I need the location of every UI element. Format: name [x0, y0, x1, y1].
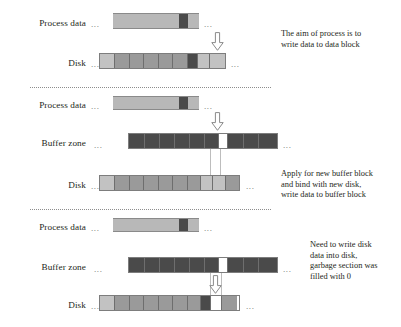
bar-stage3-disk [99, 295, 240, 311]
segment-block [160, 134, 175, 148]
segment-block [205, 134, 219, 148]
segment-block [228, 134, 244, 148]
segment-block [190, 134, 205, 148]
row-label-buffer-zone-2: Buffer zone [8, 138, 86, 148]
segment-block [115, 176, 130, 190]
segment-block [159, 296, 173, 310]
segment-block [259, 258, 277, 272]
section-separator-1 [30, 87, 271, 88]
segment-block [173, 176, 188, 190]
row-label-buffer-zone-3: Buffer zone [8, 262, 86, 272]
bar-stage3-buffer-zone [128, 257, 278, 273]
ellipsis-right-6: ... [204, 223, 213, 233]
segment-block [244, 258, 259, 272]
segment-target-block [188, 54, 198, 68]
segment-target-block [179, 97, 188, 109]
diagram-canvas: Process data ... ... Disk ... ... The ai… [0, 0, 401, 327]
down-arrow-icon [209, 275, 222, 294]
segment-data [188, 97, 199, 109]
bar-stage2-disk [99, 175, 240, 191]
segment-block [115, 54, 130, 68]
ellipsis-right-1: ... [204, 19, 213, 29]
segment-block [210, 54, 225, 68]
segment-block [159, 176, 173, 190]
segment-block [175, 134, 190, 148]
segment-block [222, 296, 237, 310]
annotation-stage-3: Need to write disk data into disk, garba… [310, 240, 401, 282]
segment-block [228, 258, 244, 272]
segment-block [190, 258, 205, 272]
segment-block [100, 54, 115, 68]
ellipsis-left-6: ... [91, 223, 100, 233]
segment-block [175, 258, 190, 272]
guide-line-right [220, 149, 221, 176]
down-arrow-icon [211, 32, 224, 51]
ellipsis-left-4: ... [94, 140, 103, 150]
segment-block [173, 296, 188, 310]
segment-data [188, 14, 199, 28]
segment-data [188, 219, 199, 231]
ellipsis-right-4: ... [283, 140, 292, 150]
bar-stage2-buffer-zone [128, 133, 278, 149]
ellipsis-right-3: ... [204, 101, 213, 111]
row-label-disk-1: Disk [8, 58, 86, 68]
ellipsis-right-2: ... [231, 59, 240, 69]
segment-block [160, 258, 175, 272]
segment-block [159, 54, 173, 68]
segment-block [144, 296, 159, 310]
ellipsis-right-7: ... [283, 264, 292, 274]
segment-block [244, 134, 259, 148]
segment-block [259, 134, 277, 148]
segment-block [115, 296, 130, 310]
ellipsis-right-8: ... [246, 301, 255, 311]
row-label-disk-2: Disk [8, 180, 86, 190]
segment-garbage-zero-block [211, 296, 222, 310]
down-arrow-icon [211, 112, 224, 131]
segment-block [129, 134, 145, 148]
row-label-process-data-2: Process data [8, 100, 86, 110]
segment-block [145, 134, 160, 148]
segment-block [188, 296, 201, 310]
ellipsis-right-5: ... [246, 181, 255, 191]
annotation-stage-2: Apply for new buffer block and bind with… [281, 169, 401, 201]
segment-target-block [179, 14, 188, 28]
segment-empty-buffer-block [219, 258, 228, 272]
segment-block [129, 258, 145, 272]
segment-released-block [201, 176, 213, 190]
section-separator-2 [30, 209, 271, 210]
annotation-stage-1: The aim of process is to write data to d… [281, 29, 399, 50]
segment-block [173, 54, 188, 68]
segment-block [130, 54, 144, 68]
segment-block [226, 176, 239, 190]
segment-block [144, 176, 159, 190]
bar-stage2-process-data [113, 96, 199, 110]
bar-stage3-process-data [113, 218, 199, 232]
bar-stage1-process-data [113, 13, 199, 29]
segment-written-block [201, 296, 211, 310]
ellipsis-left-1: ... [91, 19, 100, 29]
segment-block [130, 296, 144, 310]
bar-stage1-disk [99, 53, 226, 69]
row-label-process-data-3: Process data [8, 222, 86, 232]
segment-block [188, 176, 201, 190]
segment-block [130, 176, 144, 190]
segment-block [145, 258, 160, 272]
segment-block [144, 54, 159, 68]
segment-empty-buffer-block [219, 134, 228, 148]
ellipsis-left-7: ... [94, 264, 103, 274]
segment-block [213, 176, 226, 190]
ellipsis-left-3: ... [91, 101, 100, 111]
segment-block [100, 296, 115, 310]
segment-block [205, 258, 219, 272]
segment-block [100, 176, 115, 190]
row-label-process-data-1: Process data [8, 18, 86, 28]
segment-target-block [179, 219, 188, 231]
segment-data [113, 97, 179, 109]
guide-line-left [210, 149, 211, 176]
row-label-disk-3: Disk [8, 300, 86, 310]
segment-block [198, 54, 210, 68]
segment-data [113, 219, 179, 231]
segment-data [113, 14, 179, 28]
